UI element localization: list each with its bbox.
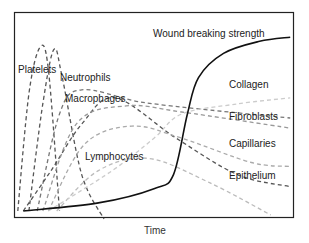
label-platelets: Platelets	[18, 65, 56, 75]
label-macrophages: Macrophages	[65, 94, 126, 104]
series-epithelium	[57, 158, 271, 215]
label-wound-breaking-strength: Wound breaking strength	[153, 29, 265, 39]
series-layer	[18, 37, 290, 219]
label-epithelium: Epithelium	[229, 171, 276, 181]
label-collagen: Collagen	[229, 80, 268, 90]
label-neutrophils: Neutrophils	[60, 73, 111, 83]
label-capillaries: Capillaries	[229, 139, 276, 149]
series-macrophages	[37, 90, 290, 211]
label-fibroblasts: Fibroblasts	[229, 112, 278, 122]
label-lymphocytes: Lymphocytes	[85, 152, 144, 162]
x-axis-label: Time	[144, 226, 166, 236]
